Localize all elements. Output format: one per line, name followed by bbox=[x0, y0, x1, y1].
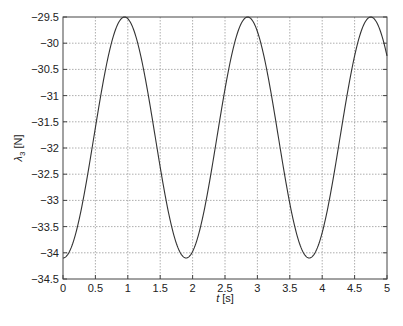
x-tick-label: 5 bbox=[384, 282, 390, 294]
x-axis-label: t [s] bbox=[216, 292, 234, 304]
y-tick-label: −33 bbox=[40, 194, 59, 206]
y-tick-label: −29.5 bbox=[31, 11, 59, 23]
y-tick-label: −32.5 bbox=[31, 168, 59, 180]
line-chart: 00.511.522.533.544.55 −29.5−30−30.5−31−3… bbox=[0, 0, 403, 326]
x-tick-label: 0 bbox=[60, 282, 66, 294]
x-tick-label: 4.5 bbox=[347, 282, 362, 294]
y-axis-label: λ3 [N] bbox=[12, 135, 27, 163]
x-tick-label: 1 bbox=[125, 282, 131, 294]
x-tick-label: 1.5 bbox=[153, 282, 168, 294]
x-tick-label: 2 bbox=[190, 282, 196, 294]
x-tick-label: 3 bbox=[254, 282, 260, 294]
x-tick-label: 0.5 bbox=[88, 282, 103, 294]
y-tick-label: −32 bbox=[40, 142, 59, 154]
y-tick-label: −30 bbox=[40, 37, 59, 49]
y-tick-label: −34.5 bbox=[31, 273, 59, 285]
y-tick-label: −30.5 bbox=[31, 63, 59, 75]
x-tick-label: 3.5 bbox=[282, 282, 297, 294]
x-tick-label: 4 bbox=[319, 282, 325, 294]
y-tick-label: −31 bbox=[40, 90, 59, 102]
y-tick-label: −31.5 bbox=[31, 116, 59, 128]
y-tick-label: −33.5 bbox=[31, 221, 59, 233]
y-tick-label: −34 bbox=[40, 247, 59, 259]
